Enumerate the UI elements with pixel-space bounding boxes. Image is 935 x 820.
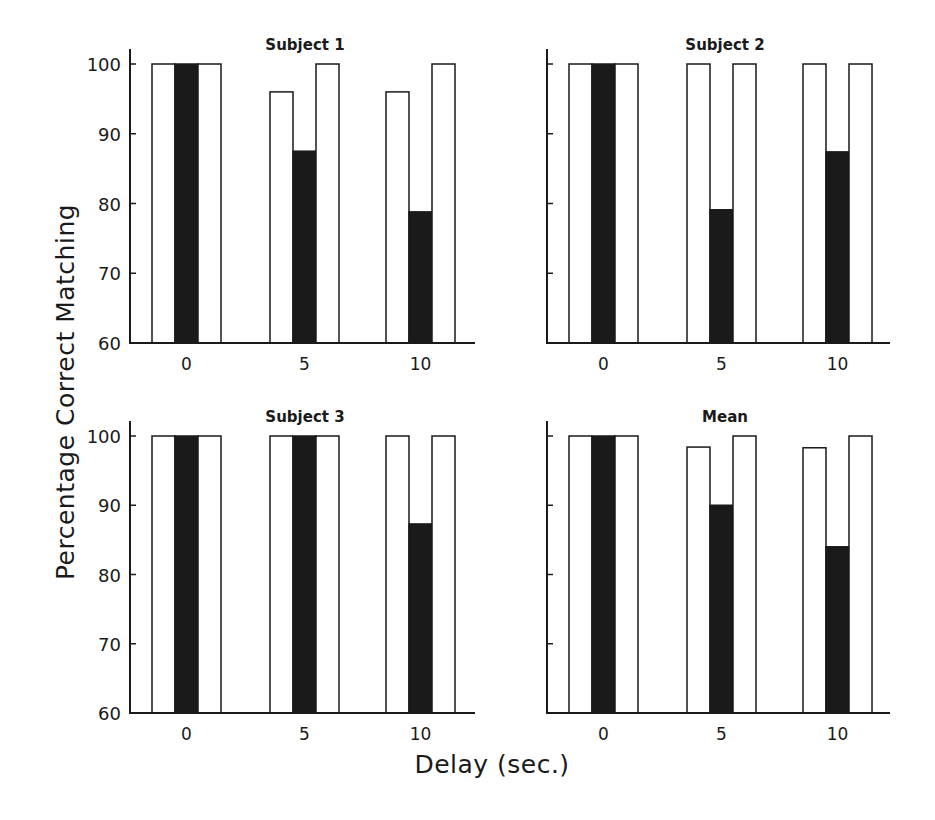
bar-filled-center-delay-0 — [592, 64, 615, 343]
bar-filled-center-delay-10 — [826, 152, 849, 343]
x-tick-label: 10 — [410, 354, 432, 374]
panel-subject-1: Subject 1051060708090100 — [87, 36, 475, 374]
y-tick-label: 60 — [98, 333, 121, 354]
panel-title: Subject 2 — [685, 36, 764, 54]
x-tick-label: 0 — [598, 354, 609, 374]
panel-title: Subject 1 — [265, 36, 344, 54]
y-tick-label: 70 — [98, 263, 121, 284]
bar-open-left-delay-5 — [270, 436, 293, 713]
bar-filled-center-delay-10 — [409, 524, 432, 713]
panel-title: Mean — [702, 408, 748, 426]
bar-filled-center-delay-10 — [826, 547, 849, 713]
x-tick-label: 10 — [410, 724, 432, 744]
bar-open-right-delay-0 — [615, 436, 638, 713]
bar-open-left-delay-0 — [569, 436, 592, 713]
bar-open-right-delay-5 — [316, 436, 339, 713]
bar-open-right-delay-5 — [316, 64, 339, 343]
bar-open-left-delay-10 — [803, 448, 826, 713]
chart-canvas: Subject 1051060708090100Subject 20510Sub… — [0, 0, 935, 820]
panel-subject-3: Subject 3051060708090100 — [87, 408, 475, 744]
bar-open-right-delay-0 — [198, 64, 221, 343]
figure: Subject 1051060708090100Subject 20510Sub… — [0, 0, 935, 820]
bar-open-right-delay-5 — [733, 436, 756, 713]
panel-mean: Mean0510 — [546, 408, 890, 744]
bar-open-right-delay-10 — [849, 436, 872, 713]
bar-open-left-delay-10 — [803, 64, 826, 343]
bar-filled-center-delay-10 — [409, 212, 432, 343]
y-tick-label: 70 — [98, 634, 121, 655]
x-tick-label: 0 — [598, 724, 609, 744]
bar-open-right-delay-0 — [615, 64, 638, 343]
bar-open-left-delay-5 — [687, 64, 710, 343]
panel-title: Subject 3 — [265, 408, 344, 426]
y-tick-label: 80 — [98, 565, 121, 586]
bar-filled-center-delay-0 — [175, 64, 198, 343]
y-tick-label: 90 — [98, 495, 121, 516]
x-tick-label: 10 — [827, 724, 849, 744]
bar-open-right-delay-0 — [198, 436, 221, 713]
bar-filled-center-delay-0 — [175, 436, 198, 713]
y-tick-label: 90 — [98, 124, 121, 145]
bar-open-left-delay-0 — [152, 64, 175, 343]
x-tick-label: 5 — [716, 724, 727, 744]
bar-open-right-delay-10 — [432, 64, 455, 343]
x-axis-label: Delay (sec.) — [414, 750, 569, 779]
x-tick-label: 5 — [716, 354, 727, 374]
bar-open-left-delay-0 — [152, 436, 175, 713]
bar-open-left-delay-0 — [569, 64, 592, 343]
y-axis-label: Percentage Correct Matching — [51, 204, 80, 580]
bar-open-right-delay-10 — [432, 436, 455, 713]
bar-open-right-delay-10 — [849, 64, 872, 343]
y-tick-label: 100 — [87, 426, 121, 447]
x-tick-label: 5 — [299, 724, 310, 744]
panel-subject-2: Subject 20510 — [546, 36, 890, 374]
bar-filled-center-delay-5 — [293, 436, 316, 713]
y-tick-label: 80 — [98, 194, 121, 215]
bar-filled-center-delay-5 — [710, 210, 733, 343]
x-tick-label: 0 — [181, 354, 192, 374]
x-tick-label: 10 — [827, 354, 849, 374]
x-tick-label: 5 — [299, 354, 310, 374]
bar-open-left-delay-10 — [386, 92, 409, 343]
bar-filled-center-delay-5 — [293, 151, 316, 343]
bar-open-left-delay-10 — [386, 436, 409, 713]
bar-open-left-delay-5 — [687, 447, 710, 713]
x-tick-label: 0 — [181, 724, 192, 744]
y-tick-label: 60 — [98, 703, 121, 724]
bar-open-left-delay-5 — [270, 92, 293, 343]
bar-filled-center-delay-5 — [710, 505, 733, 713]
bar-filled-center-delay-0 — [592, 436, 615, 713]
y-tick-label: 100 — [87, 54, 121, 75]
bar-open-right-delay-5 — [733, 64, 756, 343]
